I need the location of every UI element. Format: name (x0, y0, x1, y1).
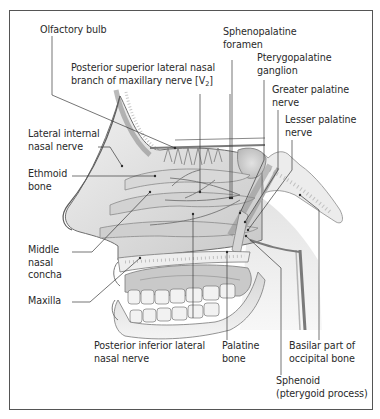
label-posterior-superior-lateral-nasal: Posterior superior lateral nasal branch … (71, 62, 215, 90)
label-lesser-palatine-nerve: Lesser palatine nerve (285, 114, 356, 139)
label-text-line2: nasal nerve (94, 353, 205, 366)
label-text-line2: nerve (272, 97, 349, 110)
label-text-line1: Posterior inferior lateral (94, 340, 205, 353)
label-middle-nasal-concha: Middle nasal concha (28, 244, 62, 282)
label-text-line1: Posterior superior lateral nasal (71, 62, 215, 75)
label-ethmoid-bone: Ethmoid bone (28, 168, 67, 193)
label-basilar-part-occipital-bone: Basilar part of occipital bone (289, 340, 355, 365)
label-greater-palatine-nerve: Greater palatine nerve (272, 84, 349, 109)
label-palatine-bone: Palatine bone (222, 340, 259, 365)
label-text-line1: Lesser palatine (285, 114, 356, 127)
label-text-line2: bone (222, 353, 259, 366)
label-text: Maxilla (28, 295, 61, 306)
label-text-line1: Ethmoid (28, 168, 67, 181)
lower-teeth (130, 303, 219, 323)
label-text-line2: nasal (28, 257, 62, 270)
label-text-line1: Middle (28, 244, 62, 257)
label-text: Olfactory bulb (40, 24, 107, 35)
label-pterygopalatine-ganglion: Pterygopalatine ganglion (257, 52, 331, 77)
label-posterior-inferior-lateral-nasal-nerve: Posterior inferior lateral nasal nerve (94, 340, 205, 365)
label-text-line2: (pterygoid process) (276, 388, 368, 401)
label-text-line1: Lateral internal (28, 128, 100, 141)
label-text-line1: Sphenoid (276, 375, 368, 388)
label-text-line1: Pterygopalatine (257, 52, 331, 65)
label-text-line1: Sphenopalatine (223, 26, 297, 39)
label-sphenopalatine-foramen: Sphenopalatine foramen (223, 26, 297, 51)
label-text-line1: Greater palatine (272, 84, 349, 97)
label-text: branch of maxillary nerve [V (71, 75, 205, 86)
label-text-line2: foramen (223, 39, 297, 52)
label-sphenoid-pterygoid-process: Sphenoid (pterygoid process) (276, 375, 368, 400)
label-text-line2: bone (28, 181, 67, 194)
label-text-line2: occipital bone (289, 353, 355, 366)
label-text-line2: branch of maxillary nerve [V2] (71, 75, 215, 91)
label-lateral-internal-nasal-nerve: Lateral internal nasal nerve (28, 128, 100, 153)
label-olfactory-bulb: Olfactory bulb (40, 24, 107, 37)
label-text-line2: nasal nerve (28, 141, 100, 154)
label-maxilla: Maxilla (28, 295, 61, 308)
label-text-line1: Palatine (222, 340, 259, 353)
label-text-line2: nerve (285, 127, 356, 140)
label-text-line1: Basilar part of (289, 340, 355, 353)
label-text: ] (209, 75, 213, 86)
label-text-line2: ganglion (257, 65, 331, 78)
label-text-line3: concha (28, 269, 62, 282)
